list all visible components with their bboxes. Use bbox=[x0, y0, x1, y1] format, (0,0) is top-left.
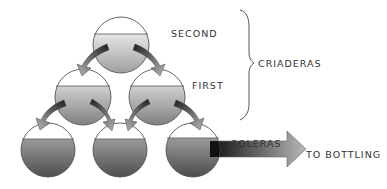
barrel-first-right bbox=[126, 69, 188, 128]
barrel-solera-left bbox=[18, 123, 78, 179]
barrel-solera-middle bbox=[90, 123, 150, 179]
label-to-bottling: TO BOTTLING bbox=[305, 149, 381, 160]
label-second: SECOND bbox=[171, 28, 218, 39]
criaderas-brace bbox=[240, 10, 254, 120]
barrel-first-left bbox=[52, 69, 114, 128]
bottling-arrow bbox=[210, 131, 306, 167]
barrel-solera-right bbox=[163, 123, 226, 178]
label-criaderas: CRIADERAS bbox=[258, 58, 322, 69]
label-first: FIRST bbox=[192, 80, 224, 91]
label-soleras: SOLERAS bbox=[231, 138, 282, 149]
barrel-second bbox=[90, 17, 152, 76]
solera-diagram: SECOND FIRST CRIADERAS SOLERAS TO BOTTLI… bbox=[0, 0, 387, 189]
